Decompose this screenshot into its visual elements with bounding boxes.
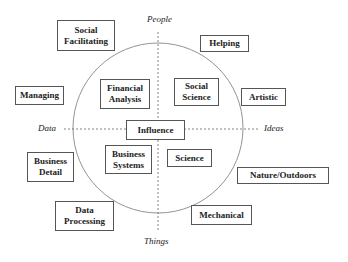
box-financial-analysis: Financial Analysis [100, 79, 150, 109]
box-influence: Influence [126, 120, 185, 140]
box-managing: Managing [15, 86, 64, 105]
box-science: Science [167, 149, 212, 167]
axis-label-ideas: Ideas [264, 123, 284, 134]
axis-label-people: People [147, 14, 172, 25]
interest-circumplex-diagram: People Things Data Ideas Influence Finan… [0, 0, 348, 262]
box-data-processing: Data Processing [55, 201, 114, 231]
box-mechanical: Mechanical [191, 205, 252, 225]
box-nature-outdoors: Nature/Outdoors [237, 167, 329, 184]
box-business-detail: Business Detail [27, 152, 74, 182]
box-social-science: Social Science [174, 78, 219, 106]
box-artistic: Artistic [241, 88, 286, 106]
axis-label-things: Things [144, 236, 169, 247]
box-social-facilitating: Social Facilitating [57, 20, 115, 51]
axis-label-data: Data [38, 123, 56, 134]
box-business-systems: Business Systems [105, 145, 152, 174]
box-helping: Helping [200, 35, 249, 52]
